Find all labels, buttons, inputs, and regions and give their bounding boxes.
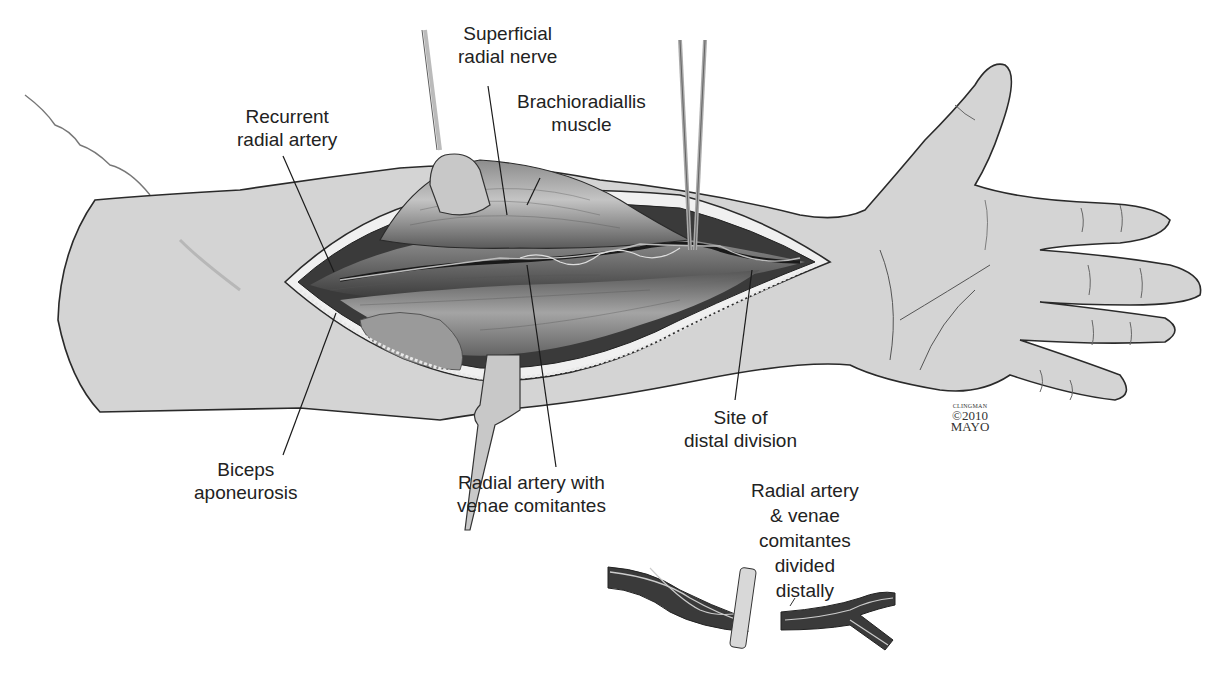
- label-line: Radial artery: [751, 478, 859, 503]
- label-line: Superficial: [458, 22, 557, 45]
- label-line: distal division: [684, 429, 797, 452]
- label-line: radial artery: [237, 128, 337, 151]
- label-line: radial nerve: [458, 45, 557, 68]
- label-line: venae comitantes: [457, 494, 606, 517]
- label-line: Brachioradiallis: [517, 90, 646, 113]
- label-line: & venae: [751, 503, 859, 528]
- label-line: Site of: [684, 406, 797, 429]
- label-radial-artery-with-venae-comitantes: Radial artery with venae comitantes: [457, 471, 606, 517]
- label-line: muscle: [517, 113, 646, 136]
- label-line: aponeurosis: [194, 481, 298, 504]
- copyright-mark: CLINGMAN ©2010 MAYO: [946, 403, 994, 432]
- label-line: comitantes: [751, 528, 859, 553]
- label-biceps-aponeurosis: Biceps aponeurosis: [194, 458, 298, 504]
- label-superficial-radial-nerve: Superficial radial nerve: [458, 22, 557, 68]
- label-line: distally: [751, 578, 859, 603]
- copyright-org: MAYO: [946, 421, 994, 432]
- label-line: Radial artery with: [457, 471, 606, 494]
- label-recurrent-radial-artery: Recurrent radial artery: [237, 105, 337, 151]
- label-radial-artery-divided-distally: Radial artery & venae comitantes divided…: [751, 478, 859, 603]
- upper-arm-outline: [25, 95, 150, 195]
- label-line: divided: [751, 553, 859, 578]
- label-site-of-distal-division: Site of distal division: [684, 406, 797, 452]
- label-line: Biceps: [194, 458, 298, 481]
- label-brachioradialis-muscle: Brachioradiallis muscle: [517, 90, 646, 136]
- label-line: Recurrent: [237, 105, 337, 128]
